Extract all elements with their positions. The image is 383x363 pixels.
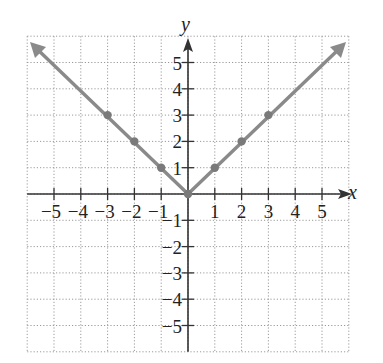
y-tick-label: 3	[173, 105, 183, 126]
data-point	[237, 137, 245, 145]
y-tick-label: 1	[173, 158, 183, 179]
y-tick-label: −2	[162, 237, 182, 258]
data-point	[157, 164, 165, 172]
y-tick-label: 2	[173, 131, 183, 152]
y-tick-label: −4	[162, 289, 183, 310]
data-point	[103, 111, 111, 119]
x-tick-label: 4	[290, 201, 300, 222]
x-tick-label: −4	[68, 201, 89, 222]
x-tick-label: −5	[41, 201, 61, 222]
y-tick-label: 5	[173, 53, 183, 74]
y-axis-label: y	[179, 13, 190, 36]
x-tick-label: 3	[264, 201, 274, 222]
data-point	[184, 190, 192, 198]
y-tick-label: −5	[162, 316, 182, 337]
data-point	[211, 164, 219, 172]
y-tick-label: −1	[162, 210, 182, 231]
absolute-value-graph: −5−4−3−2−112345−5−4−3−2−112345 x y	[0, 0, 383, 363]
x-tick-label: 2	[237, 201, 247, 222]
data-point	[264, 111, 272, 119]
x-tick-label: 1	[210, 201, 220, 222]
y-tick-label: −3	[162, 263, 182, 284]
data-point	[130, 137, 138, 145]
x-tick-label: −2	[121, 201, 141, 222]
y-tick-label: 4	[173, 79, 183, 100]
x-tick-label: 5	[317, 201, 327, 222]
x-tick-label: −3	[94, 201, 114, 222]
x-axis-label: x	[347, 181, 357, 203]
